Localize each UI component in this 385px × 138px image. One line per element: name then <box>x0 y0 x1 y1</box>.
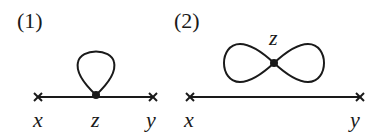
diagram-1-loop <box>78 52 115 96</box>
diagram-1-label: (1) <box>17 8 43 33</box>
feynman-diagrams: (1) x z y (2) x z y <box>0 0 385 138</box>
diagram-2: (2) x z y <box>174 8 364 132</box>
diagram-2-vertex-dot <box>270 59 278 67</box>
diagram-1-y-label: y <box>144 107 156 132</box>
diagram-1-x-label: x <box>32 107 43 132</box>
diagram-2-label: (2) <box>174 8 200 33</box>
diagram-1-vertex-dot <box>92 91 100 99</box>
diagram-2-z-label: z <box>268 25 278 50</box>
diagram-2-x-label: x <box>183 107 194 132</box>
diagram-1: (1) x z y <box>17 8 157 132</box>
diagram-1-z-label: z <box>90 107 100 132</box>
diagram-2-y-label: y <box>348 107 360 132</box>
